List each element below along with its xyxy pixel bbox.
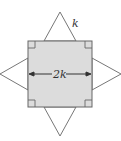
- triangle-right: [92, 58, 121, 90]
- triangle-side-label: k: [72, 17, 79, 30]
- triangle-left: [0, 58, 28, 90]
- square-side-label: 2k: [52, 68, 67, 81]
- triangle-bottom: [44, 107, 76, 136]
- star-square-diagram: 2k k: [0, 0, 121, 141]
